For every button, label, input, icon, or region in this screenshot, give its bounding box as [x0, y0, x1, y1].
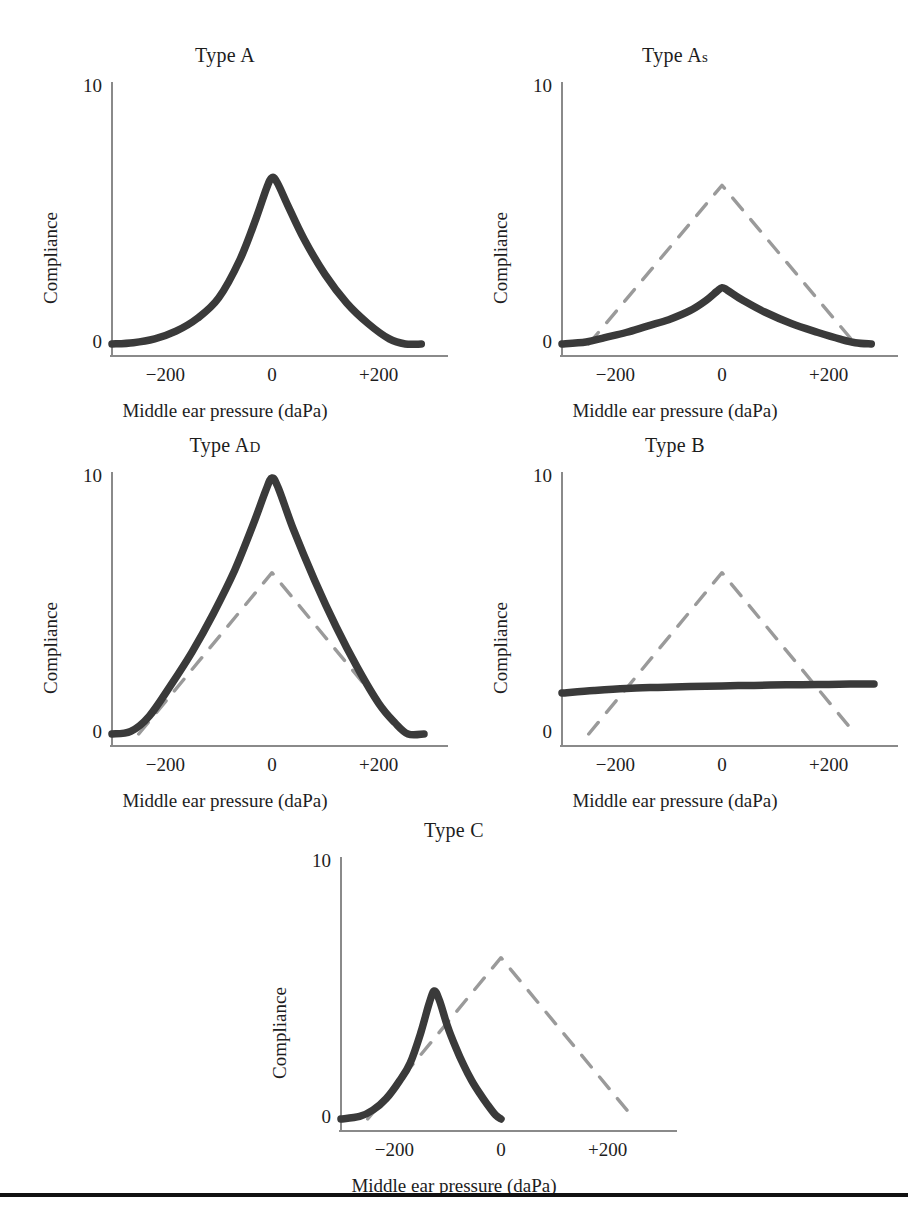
panel-type-as: Type As100−2000+200ComplianceMiddle ear … — [450, 40, 900, 430]
y-axis-label: Compliance — [269, 987, 291, 1079]
plot-area-type-a: 100−2000+200ComplianceMiddle ear pressur… — [0, 74, 450, 394]
panel-type-a: Type A100−2000+200ComplianceMiddle ear p… — [0, 40, 450, 430]
x-tick-label: +200 — [563, 1139, 653, 1161]
y-tick-label: 0 — [512, 721, 552, 743]
panel-title-main: Type C — [424, 819, 484, 841]
panel-type-c: Type C100−2000+200ComplianceMiddle ear p… — [229, 815, 679, 1205]
plot-area-type-b: 100−2000+200ComplianceMiddle ear pressur… — [450, 464, 900, 784]
y-tick-label: 0 — [512, 331, 552, 353]
y-axis-label: Compliance — [40, 212, 62, 304]
series-tympanogram — [112, 478, 424, 735]
panel-title-type-b: Type B — [450, 434, 900, 457]
series-reference — [589, 573, 856, 734]
panel-type-b: Type B100−2000+200ComplianceMiddle ear p… — [450, 430, 900, 820]
x-tick-label: 0 — [677, 364, 767, 386]
y-tick-label: 10 — [62, 465, 102, 487]
series-tympanogram — [562, 684, 874, 693]
series-reference — [368, 958, 635, 1119]
panel-title-type-a: Type A — [0, 44, 450, 67]
x-tick-label: −200 — [570, 754, 660, 776]
x-axis-label: Middle ear pressure (daPa) — [0, 790, 450, 812]
panel-type-ad: Type AD100−2000+200ComplianceMiddle ear … — [0, 430, 450, 820]
panel-title-main: Type A — [190, 434, 250, 456]
x-axis-label: Middle ear pressure (daPa) — [450, 790, 900, 812]
panel-title-type-c: Type C — [229, 819, 679, 842]
series-reference — [139, 573, 406, 734]
y-tick-label: 10 — [291, 850, 331, 872]
y-tick-label: 10 — [62, 75, 102, 97]
series-reference — [589, 185, 856, 344]
x-tick-label: −200 — [570, 364, 660, 386]
panel-title-main: Type B — [645, 434, 705, 456]
panel-title-main: Type A — [642, 44, 702, 66]
x-tick-label: 0 — [456, 1139, 546, 1161]
x-tick-label: +200 — [784, 364, 874, 386]
y-tick-label: 0 — [291, 1106, 331, 1128]
x-tick-label: 0 — [677, 754, 767, 776]
panel-title-subscript: s — [702, 49, 708, 65]
panel-title-type-as: Type As — [450, 44, 900, 67]
x-tick-label: −200 — [349, 1139, 439, 1161]
bottom-rule — [0, 1193, 908, 1197]
x-tick-label: 0 — [227, 754, 317, 776]
y-axis-label: Compliance — [40, 602, 62, 694]
plot-area-type-ad: 100−2000+200ComplianceMiddle ear pressur… — [0, 464, 450, 784]
y-tick-label: 0 — [62, 721, 102, 743]
y-tick-label: 10 — [512, 465, 552, 487]
x-tick-label: +200 — [784, 754, 874, 776]
series-tympanogram — [112, 177, 421, 344]
series-tympanogram — [562, 288, 871, 344]
panel-title-main: Type A — [195, 44, 255, 66]
panel-title-subscript: D — [249, 439, 260, 455]
x-tick-label: 0 — [227, 364, 317, 386]
plot-area-type-as: 100−2000+200ComplianceMiddle ear pressur… — [450, 74, 900, 394]
y-axis-label: Compliance — [490, 602, 512, 694]
tympanogram-figure: Type A100−2000+200ComplianceMiddle ear p… — [0, 0, 908, 1215]
x-axis-label: Middle ear pressure (daPa) — [450, 400, 900, 422]
y-tick-label: 10 — [512, 75, 552, 97]
x-tick-label: +200 — [334, 754, 424, 776]
x-tick-label: −200 — [120, 364, 210, 386]
plot-area-type-c: 100−2000+200ComplianceMiddle ear pressur… — [229, 849, 679, 1169]
y-axis-label: Compliance — [490, 212, 512, 304]
y-tick-label: 0 — [62, 331, 102, 353]
panel-title-type-ad: Type AD — [0, 434, 450, 457]
x-tick-label: +200 — [334, 364, 424, 386]
x-tick-label: −200 — [120, 754, 210, 776]
x-axis-label: Middle ear pressure (daPa) — [0, 400, 450, 422]
